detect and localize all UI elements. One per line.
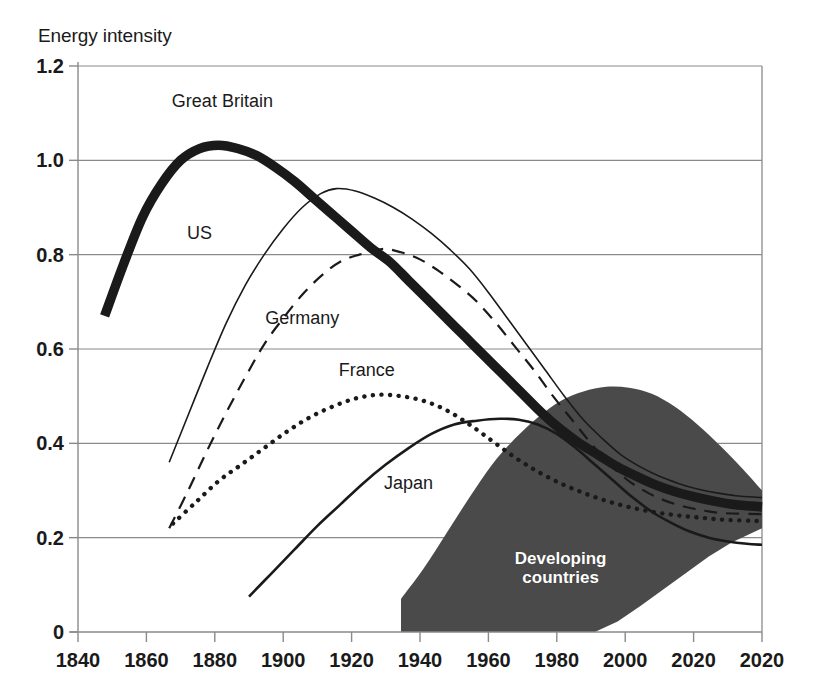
series-label-us: US bbox=[187, 223, 212, 244]
x-tick-label: 2000 bbox=[603, 649, 648, 672]
x-tick-label: 2020 bbox=[740, 649, 785, 672]
y-tick-label: 0.8 bbox=[0, 243, 64, 266]
x-tick-label: 1900 bbox=[261, 649, 306, 672]
x-tick-label: 1860 bbox=[124, 649, 169, 672]
y-axis-title: Energy intensity bbox=[38, 25, 172, 47]
energy-intensity-chart: Energy intensity 1.21.00.80.60.40.201840… bbox=[0, 0, 820, 693]
y-tick-label: 0 bbox=[0, 621, 64, 644]
x-tick-label: 1920 bbox=[329, 649, 374, 672]
band-label-developing-countries: Developing countries bbox=[515, 549, 607, 587]
series-label-great-britain: Great Britain bbox=[172, 91, 273, 112]
y-tick-label: 0.2 bbox=[0, 526, 64, 549]
x-tick-label: 1840 bbox=[56, 649, 101, 672]
y-tick-label: 0.6 bbox=[0, 338, 64, 361]
series-label-france: France bbox=[339, 360, 395, 381]
y-tick-label: 0.4 bbox=[0, 432, 64, 455]
x-tick-label: 2020 bbox=[671, 649, 716, 672]
x-tick-label: 1960 bbox=[466, 649, 511, 672]
series-label-japan: Japan bbox=[384, 473, 433, 494]
x-tick-label: 1940 bbox=[398, 649, 443, 672]
x-tick-label: 1980 bbox=[535, 649, 580, 672]
y-tick-label: 1.2 bbox=[0, 55, 64, 78]
y-tick-label: 1.0 bbox=[0, 149, 64, 172]
chart-plot-area bbox=[0, 0, 820, 693]
x-tick-label: 1880 bbox=[193, 649, 238, 672]
series-label-germany: Germany bbox=[265, 308, 339, 329]
